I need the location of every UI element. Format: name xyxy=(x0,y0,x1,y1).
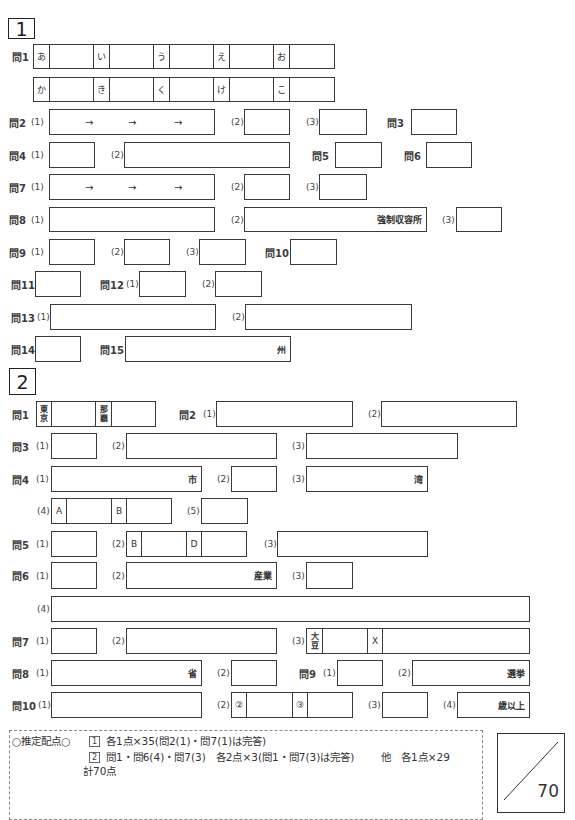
answer-box[interactable] xyxy=(337,660,383,686)
s1-q9-row: 問9 (1) (2) (3) 問10 xyxy=(0,239,575,265)
sub-label: (3) xyxy=(306,109,319,135)
answer-box[interactable]: 州 xyxy=(125,336,291,362)
answer-box[interactable] xyxy=(35,271,81,297)
answer-box-a[interactable] xyxy=(49,44,94,69)
answer-box[interactable] xyxy=(51,628,97,654)
answer-box[interactable] xyxy=(201,531,247,557)
answer-box[interactable] xyxy=(51,531,97,557)
answer-box[interactable] xyxy=(66,498,112,524)
answer-box[interactable] xyxy=(231,466,277,492)
sub-label: (2) xyxy=(112,433,125,459)
answer-box[interactable] xyxy=(306,433,458,459)
cell-label-ka: か xyxy=(33,77,50,102)
answer-box[interactable] xyxy=(126,498,172,524)
sub-label: (2) xyxy=(231,207,244,232)
sub-label: (1) xyxy=(126,271,139,297)
answer-box[interactable] xyxy=(124,239,170,265)
answer-box[interactable] xyxy=(199,239,246,265)
question-label: 問8 xyxy=(12,660,29,686)
answer-box[interactable]: 強制収容所 xyxy=(244,207,427,232)
arrow-icon: → xyxy=(85,175,93,199)
sub-label: (3) xyxy=(442,207,455,232)
answer-box[interactable] xyxy=(201,498,248,524)
answer-box[interactable] xyxy=(49,142,95,168)
answer-box[interactable] xyxy=(335,142,382,168)
answer-box[interactable] xyxy=(244,174,290,200)
question-label: 問10 xyxy=(265,239,289,265)
answer-box[interactable] xyxy=(307,692,353,718)
answer-box[interactable] xyxy=(381,401,517,427)
answer-box[interactable] xyxy=(319,109,367,135)
answer-box-order[interactable]: → → → xyxy=(49,174,215,200)
answer-box[interactable] xyxy=(231,660,277,686)
answer-box[interactable] xyxy=(382,628,530,654)
cell-label-ku: く xyxy=(153,77,170,102)
answer-box[interactable]: 湾 xyxy=(306,466,428,492)
answer-box[interactable] xyxy=(277,531,428,557)
answer-box[interactable] xyxy=(139,271,186,297)
answer-box[interactable] xyxy=(126,628,277,654)
answer-box[interactable]: 産業 xyxy=(126,562,277,589)
answer-box[interactable] xyxy=(411,109,457,135)
answer-box[interactable] xyxy=(322,628,368,654)
answer-box[interactable] xyxy=(382,692,428,718)
answer-box-ku[interactable] xyxy=(169,77,214,102)
answer-box-ko[interactable] xyxy=(289,77,335,102)
answer-suffix: 歳以上 xyxy=(498,693,525,717)
answer-box[interactable] xyxy=(51,401,96,427)
score-box[interactable]: 70 xyxy=(497,733,565,813)
cell-text: 那覇 xyxy=(99,405,108,423)
answer-box[interactable] xyxy=(246,692,293,718)
answer-box[interactable] xyxy=(49,207,215,232)
cell-label-soybean: 大豆 xyxy=(306,628,323,654)
answer-box[interactable] xyxy=(51,562,97,589)
answer-box-wide[interactable] xyxy=(51,596,530,622)
sub-label: (1) xyxy=(31,174,44,200)
answer-box[interactable]: 市 xyxy=(51,466,202,492)
sub-label: (4) xyxy=(37,596,50,622)
answer-box-u[interactable] xyxy=(169,44,214,69)
answer-box[interactable] xyxy=(141,531,187,557)
question-label: 問14 xyxy=(11,336,35,362)
sub-label: (2) xyxy=(232,304,245,330)
answer-box[interactable]: 歳以上 xyxy=(457,692,530,718)
answer-box[interactable] xyxy=(426,142,472,168)
answer-box-order[interactable]: → → → xyxy=(49,109,215,135)
answer-box[interactable] xyxy=(306,562,353,589)
answer-box-ki[interactable] xyxy=(109,77,154,102)
answer-box-ka[interactable] xyxy=(49,77,94,102)
answer-box[interactable] xyxy=(244,109,290,135)
arrow-icon: → xyxy=(128,110,136,134)
answer-box[interactable] xyxy=(51,433,97,459)
cell-label-ko: こ xyxy=(273,77,290,102)
answer-box[interactable]: 省 xyxy=(51,660,202,686)
answer-box-e[interactable] xyxy=(229,44,274,69)
answer-box[interactable] xyxy=(49,239,95,265)
answer-box[interactable] xyxy=(35,336,81,362)
answer-box[interactable] xyxy=(456,207,502,232)
cell-label-ki: き xyxy=(93,77,110,102)
answer-box-ke[interactable] xyxy=(229,77,274,102)
answer-box[interactable] xyxy=(216,401,353,427)
answer-box[interactable] xyxy=(50,304,216,330)
s1-q2-row: 問2 (1) → → → (2) (3) 問3 xyxy=(0,109,575,135)
answer-box-o[interactable] xyxy=(289,44,335,69)
answer-suffix: 省 xyxy=(188,661,197,685)
answer-box[interactable] xyxy=(215,271,262,297)
question-label: 問15 xyxy=(100,336,124,362)
sub-label: (2) xyxy=(202,271,215,297)
answer-box[interactable] xyxy=(290,239,337,265)
answer-box[interactable] xyxy=(245,304,412,330)
s1-q1-row1: 問1 あ い う え お xyxy=(0,44,575,69)
answer-box[interactable] xyxy=(51,692,202,718)
sub-label: (3) xyxy=(186,239,199,265)
answer-box[interactable] xyxy=(319,174,367,200)
answer-box-i[interactable] xyxy=(109,44,154,69)
answer-box[interactable]: 選挙 xyxy=(412,660,530,686)
answer-box[interactable] xyxy=(126,433,277,459)
answer-box[interactable] xyxy=(124,142,290,168)
cell-label-d: D xyxy=(186,531,202,557)
answer-box[interactable] xyxy=(111,401,156,427)
s2-q4-row2: (4) A B (5) xyxy=(0,498,575,524)
sub-label: (1) xyxy=(203,401,216,427)
